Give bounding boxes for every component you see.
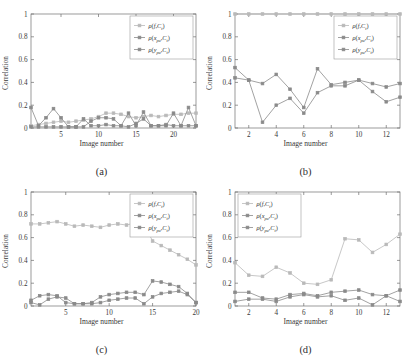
svg-text:15: 15 bbox=[132, 131, 140, 139]
x-axis-label-b: Image number bbox=[204, 139, 407, 148]
panel-a: 00.20.40.60.815101520ρ(f,Ct)ρ(xpu,Ct)ρ(y… bbox=[0, 0, 203, 178]
svg-text:0.8: 0.8 bbox=[223, 33, 232, 41]
y-axis-label-a: Correlation bbox=[2, 38, 14, 108]
panel-b: 00.20.40.60.8124681012ρ(f,Ct)ρ(xpu,Ct)ρ(… bbox=[204, 0, 407, 178]
panel-caption-d: (d) bbox=[204, 344, 407, 355]
svg-text:2: 2 bbox=[247, 131, 251, 139]
svg-text:2: 2 bbox=[247, 309, 251, 317]
svg-text:1: 1 bbox=[228, 189, 232, 197]
svg-text:0.4: 0.4 bbox=[223, 257, 232, 265]
svg-text:0.6: 0.6 bbox=[19, 234, 28, 242]
svg-text:0.4: 0.4 bbox=[223, 79, 232, 87]
y-axis-label-c: Correlation bbox=[2, 216, 14, 286]
svg-text:10: 10 bbox=[355, 131, 363, 139]
svg-text:0: 0 bbox=[24, 125, 28, 133]
y-axis-label-b: Correlation bbox=[206, 38, 218, 108]
x-axis-label-c: Image number bbox=[0, 317, 203, 326]
svg-text:10: 10 bbox=[106, 309, 114, 317]
svg-text:0.8: 0.8 bbox=[19, 33, 28, 41]
svg-text:6: 6 bbox=[302, 309, 306, 317]
y-axis-label-d: Correlation bbox=[206, 216, 218, 286]
plot-d: 00.20.40.60.8124681012ρ(f,Ct)ρ(xpu,Ct)ρ(… bbox=[204, 178, 407, 328]
svg-text:0: 0 bbox=[228, 125, 232, 133]
svg-text:12: 12 bbox=[383, 131, 391, 139]
svg-text:4: 4 bbox=[274, 309, 278, 317]
svg-text:0.2: 0.2 bbox=[19, 280, 28, 288]
svg-text:1: 1 bbox=[24, 189, 28, 197]
svg-text:1: 1 bbox=[228, 11, 232, 19]
svg-text:8: 8 bbox=[329, 131, 333, 139]
svg-text:8: 8 bbox=[329, 309, 333, 317]
svg-text:0.2: 0.2 bbox=[19, 102, 28, 110]
svg-text:20: 20 bbox=[192, 309, 200, 317]
svg-text:0.4: 0.4 bbox=[19, 79, 28, 87]
svg-text:1: 1 bbox=[24, 11, 28, 19]
svg-text:12: 12 bbox=[383, 309, 391, 317]
svg-text:5: 5 bbox=[64, 309, 68, 317]
panel-d: 00.20.40.60.8124681012ρ(f,Ct)ρ(xpu,Ct)ρ(… bbox=[204, 178, 407, 356]
svg-text:0: 0 bbox=[24, 303, 28, 311]
svg-text:4: 4 bbox=[274, 131, 278, 139]
svg-text:0.8: 0.8 bbox=[223, 211, 232, 219]
svg-text:0.2: 0.2 bbox=[223, 102, 232, 110]
svg-text:0.2: 0.2 bbox=[223, 280, 232, 288]
panel-caption-c: (c) bbox=[0, 344, 203, 355]
svg-text:5: 5 bbox=[59, 131, 63, 139]
plot-c: 00.20.40.60.815101520ρ(f,Ct)ρ(xpu,Ct)ρ(y… bbox=[0, 178, 203, 328]
panel-caption-b: (b) bbox=[204, 166, 407, 177]
panel-caption-a: (a) bbox=[0, 166, 203, 177]
svg-text:10: 10 bbox=[355, 309, 363, 317]
plot-b: 00.20.40.60.8124681012ρ(f,Ct)ρ(xpu,Ct)ρ(… bbox=[204, 0, 407, 150]
svg-text:0.6: 0.6 bbox=[223, 56, 232, 64]
svg-text:10: 10 bbox=[95, 131, 103, 139]
svg-text:0.8: 0.8 bbox=[19, 211, 28, 219]
svg-text:15: 15 bbox=[149, 309, 157, 317]
svg-text:20: 20 bbox=[170, 131, 178, 139]
svg-text:0: 0 bbox=[228, 303, 232, 311]
panel-c: 00.20.40.60.815101520ρ(f,Ct)ρ(xpu,Ct)ρ(y… bbox=[0, 178, 203, 356]
figure-correlation-panels: 00.20.40.60.815101520ρ(f,Ct)ρ(xpu,Ct)ρ(y… bbox=[0, 0, 407, 357]
x-axis-label-d: Image number bbox=[204, 317, 407, 326]
svg-text:0.4: 0.4 bbox=[19, 257, 28, 265]
svg-text:6: 6 bbox=[302, 131, 306, 139]
svg-text:0.6: 0.6 bbox=[19, 56, 28, 64]
svg-text:0.6: 0.6 bbox=[223, 234, 232, 242]
plot-a: 00.20.40.60.815101520ρ(f,Ct)ρ(xpu,Ct)ρ(y… bbox=[0, 0, 203, 150]
x-axis-label-a: Image number bbox=[0, 139, 203, 148]
